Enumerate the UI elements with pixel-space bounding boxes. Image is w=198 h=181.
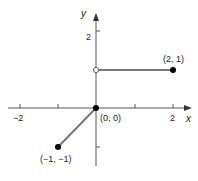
x-axis-arrow-icon xyxy=(184,105,192,111)
open-point-0-1 xyxy=(93,67,98,72)
x-axis xyxy=(8,104,192,111)
piecewise-function-graph: y x −2 2 2 (2, 1) (0, 0) (−1, −1) xyxy=(0,0,198,181)
x-axis-label: x xyxy=(185,113,192,124)
y-tick-label-2: 2 xyxy=(86,32,91,42)
y-axis-label: y xyxy=(80,8,87,19)
y-axis-arrow-icon xyxy=(93,13,99,21)
point-label-2-1: (2, 1) xyxy=(163,54,184,64)
x-tick-label-2: 2 xyxy=(170,113,175,123)
closed-point-2-1 xyxy=(170,67,176,73)
closed-point-origin xyxy=(93,105,99,111)
segment-1-line xyxy=(58,108,96,147)
point-label-neg1-neg1: (−1, −1) xyxy=(40,154,72,164)
x-tick-label-neg2: −2 xyxy=(13,113,23,123)
y-axis xyxy=(93,13,100,166)
closed-point-neg1-neg1 xyxy=(55,144,61,150)
point-label-origin: (0, 0) xyxy=(100,113,121,123)
